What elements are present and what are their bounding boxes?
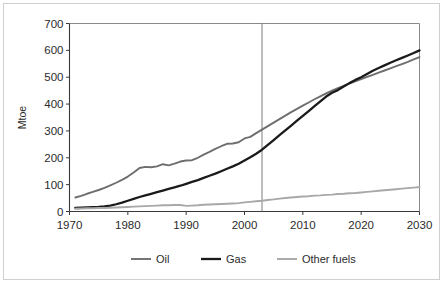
y-axis-tick-label: 300 [44, 125, 63, 137]
x-axis-tick-label: 2020 [348, 219, 374, 231]
plot-background [70, 24, 420, 212]
y-axis-tick-label: 200 [44, 152, 63, 164]
x-axis-tick-label: 1990 [173, 219, 199, 231]
x-axis-tick-label: 2010 [290, 219, 316, 231]
chart-figure: 0100200300400500600700197019801990200020… [0, 0, 443, 286]
legend-label-gas: Gas [226, 253, 247, 265]
plot-area-wrapper: 0100200300400500600700197019801990200020… [0, 0, 443, 286]
y-axis-tick-label: 0 [57, 206, 63, 218]
x-axis-tick-label: 1980 [115, 219, 141, 231]
y-axis-tick-label: 100 [44, 179, 63, 191]
y-axis-tick-label: 500 [44, 71, 63, 83]
y-axis-tick-label: 600 [44, 44, 63, 56]
legend-label-oil: Oil [156, 253, 169, 265]
y-axis-title: Mtoe [16, 106, 28, 130]
line-chart: 0100200300400500600700197019801990200020… [0, 0, 443, 286]
x-axis-tick-label: 2000 [232, 219, 258, 231]
legend-label-other-fuels: Other fuels [302, 253, 356, 265]
x-axis-tick-label: 2030 [407, 219, 433, 231]
x-axis-tick-label: 1970 [57, 219, 83, 231]
y-axis-tick-label: 400 [44, 98, 63, 110]
y-axis-tick-label: 700 [44, 18, 63, 30]
